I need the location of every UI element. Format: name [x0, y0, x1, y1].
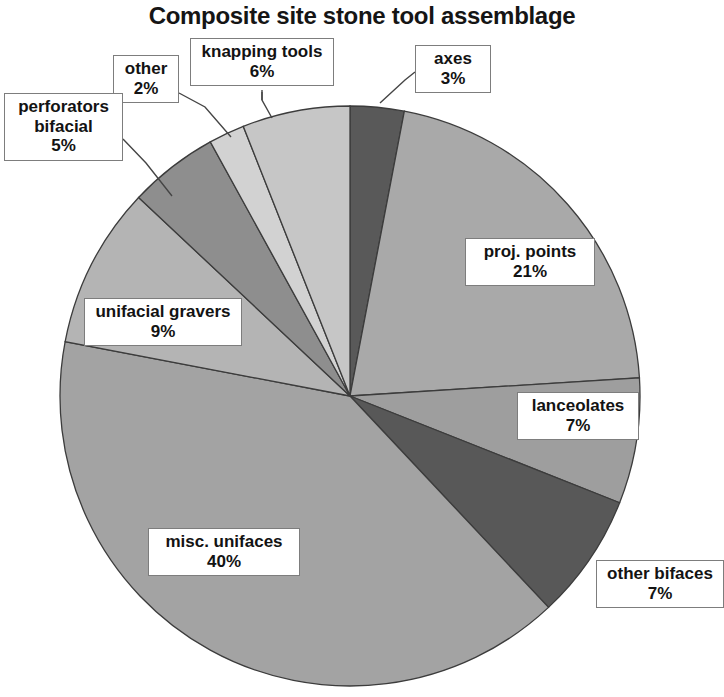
callout-axes-value: 3% [422, 69, 484, 89]
callout-unifacial-gravers-value: 9% [91, 322, 235, 342]
callout-lanceolates-label: lanceolates [524, 396, 632, 416]
callout-proj-points: proj. points 21% [465, 238, 595, 286]
callout-perforators-value: 5% [11, 136, 116, 156]
callout-perforators-bifacial: perforators bifacial 5% [4, 93, 123, 161]
callout-other-bifaces-label: other bifaces [603, 564, 717, 584]
pie-chart-figure: Composite site stone tool assemblage oth… [0, 0, 724, 697]
callout-other-label: other [120, 59, 172, 79]
callout-unifacial-gravers: unifacial gravers 9% [84, 298, 242, 346]
leader-line-knapping-tools [262, 90, 272, 118]
callout-unifacial-gravers-label: unifacial gravers [91, 302, 235, 322]
callout-knapping-tools-value: 6% [197, 62, 327, 82]
callout-perforators-label2: bifacial [11, 117, 116, 137]
callout-other-bifaces: other bifaces 7% [596, 560, 724, 608]
leader-line-perforators [123, 139, 172, 196]
callout-proj-points-value: 21% [472, 262, 588, 282]
callout-other-bifaces-value: 7% [603, 584, 717, 604]
leader-line-axes [380, 72, 415, 103]
callout-perforators-label: perforators [11, 97, 116, 117]
callout-proj-points-label: proj. points [472, 242, 588, 262]
callout-other-value: 2% [120, 79, 172, 99]
callout-misc-unifaces-value: 40% [155, 552, 293, 572]
callout-misc-unifaces: misc. unifaces 40% [148, 528, 300, 576]
callout-misc-unifaces-label: misc. unifaces [155, 532, 293, 552]
callout-knapping-tools: knapping tools 6% [190, 38, 334, 86]
callout-lanceolates-value: 7% [524, 416, 632, 436]
callout-axes-label: axes [422, 49, 484, 69]
callout-axes: axes 3% [415, 45, 491, 93]
callout-lanceolates: lanceolates 7% [517, 392, 639, 440]
leader-line-other [179, 93, 231, 137]
callout-knapping-tools-label: knapping tools [197, 42, 327, 62]
